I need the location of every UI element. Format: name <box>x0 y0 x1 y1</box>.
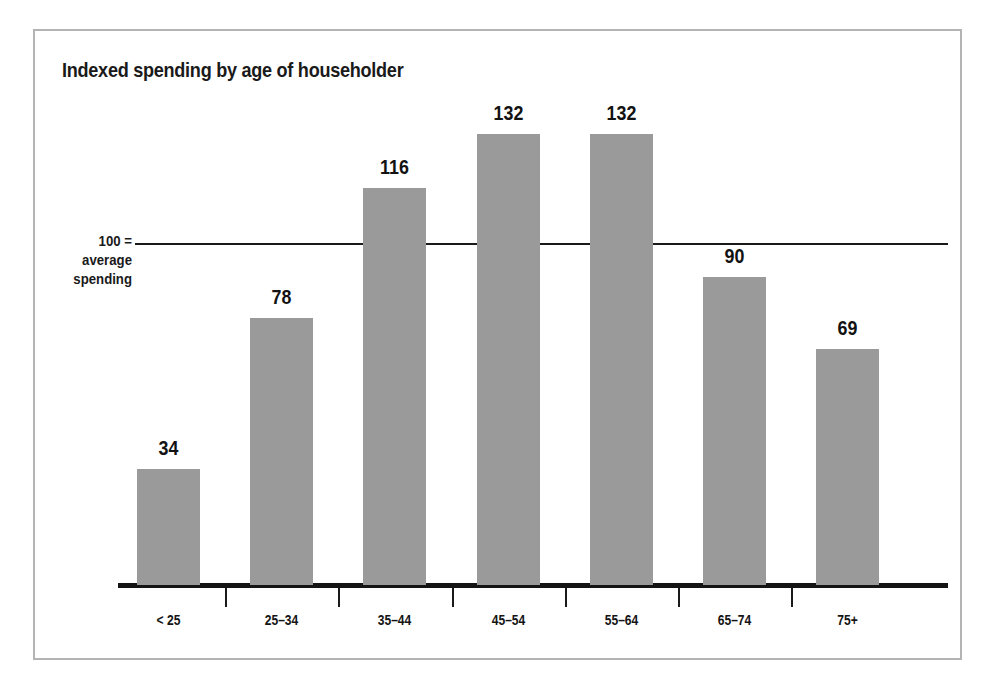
bar <box>816 349 879 585</box>
x-axis-category-label: 35–44 <box>346 612 443 628</box>
x-axis-category-label: 55–64 <box>573 612 670 628</box>
bar <box>590 134 653 585</box>
bar <box>703 277 766 585</box>
x-axis-tick <box>678 588 680 607</box>
bar <box>363 188 426 585</box>
bar <box>250 318 313 585</box>
x-axis-category-label: 25–34 <box>233 612 330 628</box>
x-axis-tick <box>791 588 793 607</box>
x-axis-tick <box>452 588 454 607</box>
bar-value-label: 132 <box>460 101 556 125</box>
bar <box>477 134 540 585</box>
x-axis-category-label: 75+ <box>799 612 896 628</box>
bar-value-label: 90 <box>686 244 782 268</box>
x-axis-category-label: 45–54 <box>460 612 557 628</box>
chart-figure: Indexed spending by age of householder 1… <box>0 0 989 694</box>
bar-value-label: 69 <box>800 316 896 340</box>
bar-value-label: 34 <box>120 436 216 460</box>
bar <box>137 469 200 585</box>
x-axis-tick <box>225 588 227 607</box>
x-axis-tick <box>338 588 340 607</box>
bar-value-label: 132 <box>573 101 669 125</box>
x-axis-category-label: < 25 <box>120 612 217 628</box>
bar-value-label: 116 <box>347 155 443 179</box>
x-axis-tick <box>565 588 567 607</box>
x-axis-category-label: 65–74 <box>686 612 783 628</box>
bar-value-label: 78 <box>234 285 330 309</box>
